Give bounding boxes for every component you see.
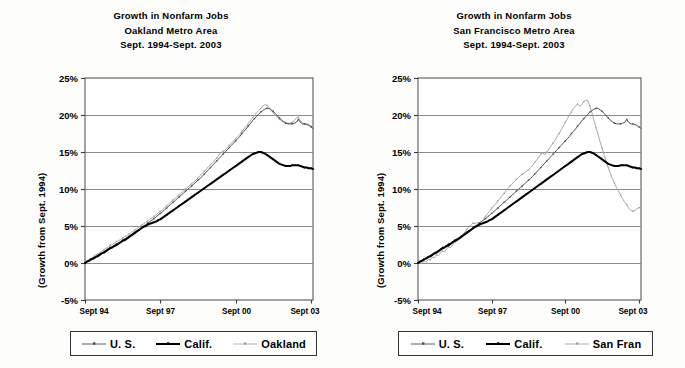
series-marker (571, 133, 572, 134)
series-marker (540, 154, 541, 155)
legend-line-marker-icon (410, 339, 436, 349)
series-marker (522, 185, 523, 186)
series-marker (254, 115, 255, 116)
series-marker (583, 101, 584, 102)
series-marker (160, 219, 161, 220)
series-marker (197, 179, 198, 180)
series-marker (185, 201, 186, 202)
series-marker (235, 138, 236, 139)
series-marker (503, 210, 504, 211)
series-marker (522, 174, 523, 175)
series-marker (304, 123, 305, 124)
series-marker (266, 108, 267, 109)
series-marker (122, 237, 123, 238)
plot-frame (418, 78, 641, 300)
series-marker (522, 196, 523, 197)
legend-item-u-s-[interactable]: U. S. (410, 338, 464, 350)
series-marker (191, 183, 192, 184)
series-marker (552, 154, 553, 155)
series-marker (466, 232, 467, 233)
series-marker (552, 174, 553, 175)
x-axis-tick-label: Sept 00 (222, 307, 252, 316)
x-axis-tick-label: Sept 00 (551, 307, 581, 316)
series-marker (204, 171, 205, 172)
series-marker (454, 240, 455, 241)
series-marker (626, 119, 627, 120)
series-marker (273, 159, 274, 160)
series-marker (565, 122, 566, 123)
series-marker (417, 262, 418, 263)
series-marker (153, 222, 154, 223)
series-marker (254, 153, 255, 154)
series-marker (497, 208, 498, 209)
series-marker (448, 245, 449, 246)
series-marker (204, 188, 205, 189)
series-marker (565, 165, 566, 166)
legend-item-u-s-[interactable]: U. S. (81, 338, 135, 350)
x-axis-tick-label: Sept 03 (618, 307, 648, 316)
series-marker (197, 192, 198, 193)
series-marker (247, 123, 248, 124)
series-marker (235, 140, 236, 141)
legend-item-oakland[interactable]: Oakland (232, 338, 306, 350)
series-marker (558, 133, 559, 134)
series-marker (103, 252, 104, 253)
series-marker (491, 208, 492, 209)
series-marker (540, 183, 541, 184)
y-axis-tick-label: 20% (392, 110, 412, 121)
series-marker (91, 259, 92, 260)
series-marker (608, 163, 609, 164)
series-marker (620, 123, 621, 124)
y-axis-tick-label: 25% (59, 73, 79, 84)
series-marker (191, 196, 192, 197)
series-marker (509, 205, 510, 206)
legend-item-san-fran[interactable]: San Fran (564, 338, 642, 350)
series-marker (638, 126, 639, 127)
series-marker (614, 165, 615, 166)
series-marker (216, 179, 217, 180)
series-marker (540, 167, 541, 168)
legend-item-calif-[interactable]: Calif. (485, 338, 542, 350)
series-marker (291, 123, 292, 124)
series-marker (141, 225, 142, 226)
series-marker (260, 151, 261, 152)
series-marker (109, 248, 110, 249)
series-marker (141, 228, 142, 229)
series-marker (279, 117, 280, 118)
series-marker (436, 252, 437, 253)
series-marker (473, 228, 474, 229)
series-marker (178, 196, 179, 197)
series-marker (614, 182, 615, 183)
series-marker (216, 160, 217, 161)
series-marker (298, 165, 299, 166)
series-marker (298, 119, 299, 120)
series-marker (595, 154, 596, 155)
legend-line-marker-icon (155, 339, 181, 349)
series-marker (589, 111, 590, 112)
legend-item-calif-[interactable]: Calif. (155, 338, 212, 350)
y-axis-tick-label: 0% (397, 258, 411, 269)
legend-line-marker-icon (232, 339, 258, 349)
series-marker (577, 103, 578, 104)
legend-label: U. S. (110, 338, 135, 350)
series-marker (497, 214, 498, 215)
chart-panel-sanfrancisco: Growth in Nonfarm Jobs San Francisco Met… (343, 0, 685, 368)
series-marker (485, 216, 486, 217)
series-marker (423, 259, 424, 260)
series-marker (279, 163, 280, 164)
legend-line-marker-icon (485, 339, 511, 349)
series-marker (577, 125, 578, 126)
series-marker (166, 208, 167, 209)
series-marker (479, 224, 480, 225)
series-marker (210, 167, 211, 168)
chart-svg: -5%0%5%10%15%20%25%Sept 94Sept 97Sept 00… (0, 0, 342, 368)
series-marker (534, 188, 535, 189)
series-marker (528, 192, 529, 193)
x-axis-tick-label: Sept 94 (413, 307, 443, 316)
plot-frame (85, 78, 313, 300)
series-marker (128, 233, 129, 234)
x-axis-tick-label: Sept 03 (290, 307, 320, 316)
series-marker (84, 262, 85, 263)
series-marker (503, 193, 504, 194)
series-marker (430, 259, 431, 260)
